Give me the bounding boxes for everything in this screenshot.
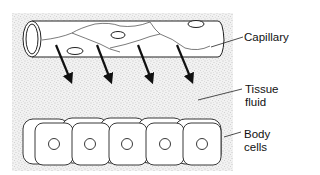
body-cell: [146, 123, 184, 165]
body-cell: [109, 123, 147, 165]
capillary-label: Capillary: [244, 31, 289, 44]
body-cell: [183, 123, 221, 165]
body-cells-label: Body cells: [244, 128, 270, 154]
body-cells-label-line1: Body: [244, 128, 270, 141]
body-cells: [23, 118, 221, 165]
body-cell: [72, 123, 110, 165]
body-cell: [35, 123, 73, 165]
body-cells-label-line2: cells: [244, 141, 270, 154]
tissue-fluid-label-line1: Tissue: [245, 83, 278, 96]
tissue-fluid-label-line2: fluid: [245, 96, 278, 109]
tissue-fluid-label: Tissue fluid: [245, 83, 278, 109]
capillary: [23, 21, 224, 58]
capillary-label-text: Capillary: [244, 31, 289, 43]
